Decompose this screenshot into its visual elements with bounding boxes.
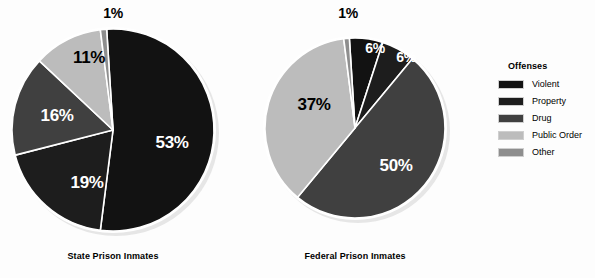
legend-item-violent[interactable]: Violent <box>498 77 593 92</box>
legend-item-label: Drug <box>532 114 552 123</box>
legend-swatch-icon <box>498 131 524 140</box>
legend-item-label: Other <box>532 148 555 157</box>
legend-item-public-order[interactable]: Public Order <box>498 128 593 143</box>
pie-caption: Federal Prison Inmates <box>304 252 405 261</box>
chart-legend: Offenses ViolentPropertyDrugPublic Order… <box>498 62 593 162</box>
legend-item-label: Violent <box>532 80 559 89</box>
legend-item-drug[interactable]: Drug <box>498 111 593 126</box>
legend-swatch-icon <box>498 114 524 123</box>
legend-item-label: Public Order <box>532 131 582 140</box>
legend-swatch-icon <box>498 148 524 157</box>
legend-swatch-icon <box>498 80 524 89</box>
legend-items: ViolentPropertyDrugPublic OrderOther <box>498 77 593 160</box>
legend-item-label: Property <box>532 97 566 106</box>
legend-item-property[interactable]: Property <box>498 94 593 109</box>
legend-item-other[interactable]: Other <box>498 145 593 160</box>
legend-swatch-icon <box>498 97 524 106</box>
legend-title: Offenses <box>508 62 593 71</box>
pie-chart-figure: 53%19%16%11%1%State Prison Inmates6%6%50… <box>0 0 595 278</box>
